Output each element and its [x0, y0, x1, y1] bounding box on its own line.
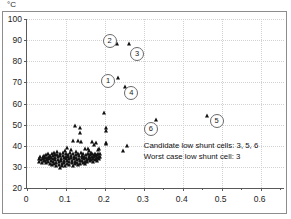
data-point-marker: [102, 111, 106, 115]
data-point-marker: [97, 147, 101, 151]
data-point-marker: [92, 152, 96, 156]
data-point-marker: [67, 160, 71, 164]
data-point-marker: [58, 151, 62, 155]
data-point-marker: [75, 160, 79, 164]
callout-4: 4: [124, 86, 138, 100]
data-point-marker: [91, 159, 95, 163]
data-point-marker: [80, 153, 84, 157]
y-tick-label: 60: [13, 99, 22, 109]
data-point-marker: [86, 147, 90, 151]
data-point-marker: [82, 154, 86, 158]
x-tick-label: 0.6: [254, 194, 266, 204]
data-point-marker: [96, 152, 100, 156]
data-point-marker: [44, 153, 48, 157]
data-point-marker: [49, 158, 53, 162]
data-point-marker: [65, 146, 69, 150]
callout-1: 1: [101, 74, 115, 88]
annotation-line-1: Candidate low shunt cells: 3, 5, 6: [144, 140, 258, 151]
data-point-marker: [60, 164, 64, 168]
y-tick-label: 90: [13, 35, 22, 45]
x-tick-label: 0.3: [137, 194, 149, 204]
data-point-marker: [56, 155, 60, 159]
data-point-marker: [59, 159, 63, 163]
data-point-marker: [74, 155, 78, 159]
data-point-marker: [74, 153, 78, 157]
data-point-marker: [67, 162, 71, 166]
data-point-marker: [43, 156, 47, 160]
callout-5: 5: [210, 114, 224, 128]
gridline-vertical: [183, 19, 184, 188]
gridlines: [27, 19, 284, 188]
data-point-marker: [98, 152, 102, 156]
data-point-marker: [68, 151, 72, 155]
data-point-marker: [104, 125, 108, 129]
data-point-marker: [47, 155, 51, 159]
data-point-marker: [44, 161, 48, 165]
data-point-marker: [46, 160, 50, 164]
data-point-marker: [92, 155, 96, 159]
data-point-marker: [66, 152, 70, 156]
data-point-marker: [55, 152, 59, 156]
data-point-marker: [76, 163, 80, 167]
data-point-marker: [87, 156, 91, 160]
data-point-marker: [45, 157, 49, 161]
data-point-marker: [104, 142, 108, 146]
data-point-marker: [73, 124, 77, 128]
data-point-marker: [74, 149, 78, 153]
data-point-marker: [78, 159, 82, 163]
data-point-marker: [64, 152, 68, 156]
x-tick-label: 0.2: [98, 194, 110, 204]
data-point-marker: [62, 156, 66, 160]
data-point-marker: [61, 153, 65, 157]
gridline-horizontal: [27, 125, 284, 126]
data-point-marker: [92, 143, 96, 147]
data-point-marker: [84, 155, 88, 159]
data-point-marker: [91, 157, 95, 161]
data-point-marker: [154, 118, 158, 122]
gridline-vertical: [105, 19, 106, 188]
annotation-line-2: Worst case low shunt cell: 3: [144, 151, 258, 162]
data-point-marker: [69, 148, 73, 152]
data-point-marker: [72, 154, 76, 158]
data-point-marker: [37, 159, 41, 163]
data-point-marker: [53, 158, 57, 162]
data-point-marker: [56, 157, 60, 161]
data-point-marker: [97, 154, 101, 158]
data-point-marker: [82, 157, 86, 161]
y-tick-label: 100: [8, 14, 22, 24]
data-point-marker: [115, 42, 119, 46]
data-point-marker: [90, 154, 94, 158]
data-point-marker: [83, 162, 87, 166]
data-point-marker: [62, 161, 66, 165]
data-point-marker: [38, 155, 42, 159]
data-point-marker: [43, 158, 47, 162]
data-point-marker: [78, 126, 82, 130]
data-point-marker: [116, 76, 120, 80]
data-point-marker: [121, 148, 125, 152]
y-axis-unit-label: °C: [7, 0, 16, 9]
data-point-marker: [60, 161, 64, 165]
gridline-horizontal: [27, 61, 284, 62]
data-point-marker: [52, 162, 56, 166]
data-point-marker: [87, 154, 91, 158]
data-point-marker: [123, 84, 127, 88]
gridline-vertical: [66, 19, 67, 188]
data-point-marker: [73, 162, 77, 166]
data-point-marker: [49, 156, 53, 160]
data-point-marker: [81, 161, 85, 165]
data-point-marker: [90, 140, 94, 144]
data-point-marker: [70, 159, 74, 163]
data-point-marker: [84, 153, 88, 157]
data-point-marker: [57, 162, 61, 166]
data-point-marker: [77, 154, 81, 158]
data-point-marker: [42, 153, 46, 157]
data-point-marker: [78, 161, 82, 165]
callout-3: 3: [130, 47, 144, 61]
y-tick-label: 80: [13, 56, 22, 66]
data-point-marker: [93, 151, 97, 155]
data-point-marker: [88, 153, 92, 157]
data-point-marker: [50, 163, 54, 167]
gridline-horizontal: [27, 104, 284, 105]
y-tick-label: 20: [13, 183, 22, 193]
y-tick-label: 70: [13, 77, 22, 87]
